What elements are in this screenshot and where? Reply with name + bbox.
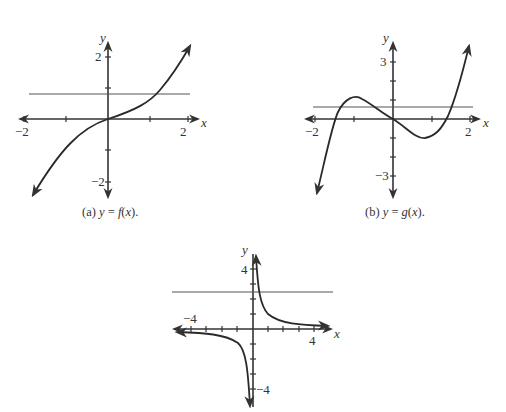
x-tick-label-neg: −2 — [15, 124, 29, 139]
y-axis-label: y — [381, 30, 389, 45]
x-axis-label: x — [200, 115, 207, 130]
caption-b: (b) y = g(x). — [365, 205, 425, 219]
y-axis-label: y — [98, 30, 106, 45]
caption-a: (a) y = f(x). — [82, 205, 138, 219]
x-axis-label: x — [482, 115, 489, 130]
curve-f — [33, 46, 190, 195]
x-tick-label-neg: −2 — [305, 124, 319, 139]
x-tick-label-pos: 2 — [465, 124, 472, 139]
x-axis-label: x — [333, 326, 340, 341]
curve-h-right — [256, 256, 328, 326]
x-tick-label-neg: −4 — [183, 311, 197, 326]
graph-b: y x −2 2 3 −3 (b) y = g(x). — [305, 30, 489, 219]
y-tick-label-pos: 3 — [380, 54, 387, 69]
y-axis-label: y — [240, 242, 248, 257]
y-tick-label-neg: −2 — [91, 174, 105, 189]
y-tick-label-neg: −4 — [256, 382, 270, 397]
y-tick-label-pos: 4 — [241, 262, 248, 277]
x-tick-label-pos: 2 — [180, 124, 187, 139]
figure-canvas: y x −2 2 2 −2 (a) y = f(x). y x −2 2 — [0, 0, 506, 412]
y-tick-label-pos: 2 — [95, 49, 102, 64]
graph-a: y x −2 2 2 −2 (a) y = f(x). — [15, 30, 207, 219]
x-tick-label-pos: 4 — [309, 333, 316, 348]
graph-c: y x −4 4 4 −4 — [172, 242, 340, 407]
y-tick-label-neg: −3 — [375, 168, 389, 183]
curve-h-left — [177, 332, 250, 406]
